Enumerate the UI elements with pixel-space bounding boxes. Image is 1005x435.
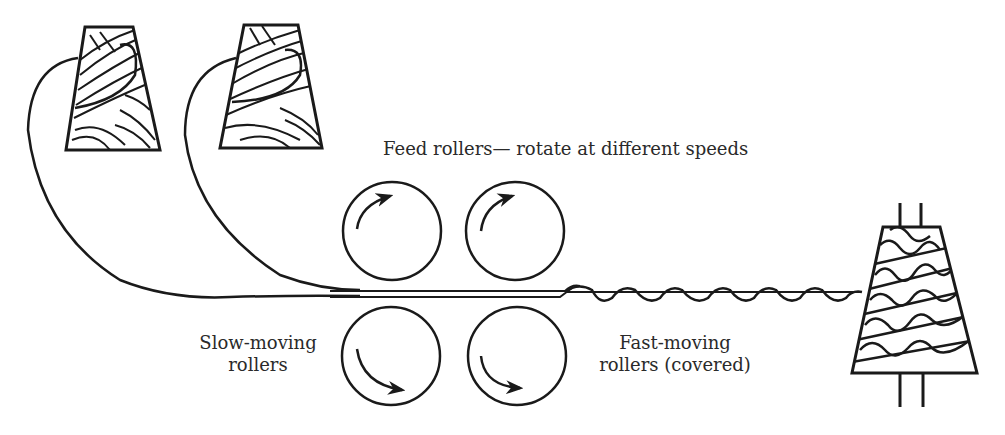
fast-roller-bottom-right xyxy=(468,307,566,405)
yarn-cone-middle xyxy=(185,25,360,290)
slow-rollers-label: Slow-moving rollers xyxy=(188,332,328,376)
roller-diagram xyxy=(0,0,1005,435)
yarn-path xyxy=(330,286,862,301)
feed-rollers-label: Feed rollers— rotate at different speeds xyxy=(383,138,748,160)
fast-rollers-label-line1: Fast-moving xyxy=(585,332,765,354)
slow-rollers-label-line1: Slow-moving xyxy=(188,332,328,354)
yarn-cone-left xyxy=(28,27,360,297)
feed-roller-top-left xyxy=(343,182,441,280)
take-up-cone xyxy=(852,203,977,407)
slow-rollers-label-line2: rollers xyxy=(188,354,328,376)
fast-rollers-label-line2: rollers (covered) xyxy=(585,354,765,376)
slow-roller-bottom-left xyxy=(342,307,440,405)
feed-roller-top-right xyxy=(466,182,564,280)
diagram-canvas: Feed rollers— rotate at different speeds… xyxy=(0,0,1005,435)
fast-rollers-label: Fast-moving rollers (covered) xyxy=(585,332,765,376)
